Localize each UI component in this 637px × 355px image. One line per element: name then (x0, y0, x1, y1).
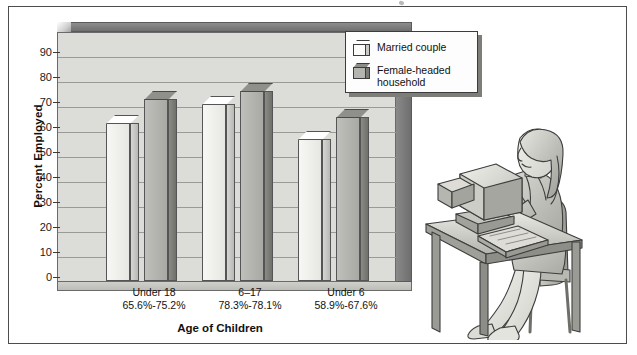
figure-canvas: 90 80 70 60 50 40 30 20 10 0 Percent Emp… (0, 0, 637, 355)
bar-married-couple-under-18 (106, 115, 139, 281)
bar-face (144, 99, 168, 281)
y-tick-label: 0 (22, 272, 52, 282)
bar-side (130, 123, 139, 281)
x-group-name: Under 6 (286, 286, 406, 299)
illustration-woman-at-computer (420, 118, 600, 340)
x-group-under-6: Under 6 58.9%-67.6% (286, 286, 406, 312)
stray-speck (398, 0, 404, 6)
y-tick-mark (53, 202, 60, 203)
y-tick-label: 10 (22, 247, 52, 257)
legend-item-married-couple: Married couple (353, 40, 446, 56)
legend-box: Married couple Female-headed household (345, 31, 478, 93)
bar-side (168, 99, 177, 281)
bar-face (240, 91, 264, 281)
bar-female-headed-under-6 (336, 109, 369, 281)
bar-female-headed-6-17 (240, 83, 273, 281)
chart-legend: Married couple Female-headed household (345, 31, 478, 93)
y-tick-mark (53, 77, 60, 78)
legend-swatch-dark-cube-icon (353, 63, 370, 79)
y-tick-mark (53, 227, 60, 228)
bar-side (264, 91, 273, 281)
bar-female-headed-under-18 (144, 91, 177, 281)
bar-face (202, 104, 226, 281)
legend-swatch-light-cube-icon (353, 40, 370, 56)
bar-face (298, 139, 322, 281)
x-axis-title: Age of Children (120, 322, 320, 334)
y-tick-mark (53, 52, 60, 53)
bar-face (336, 117, 360, 281)
y-axis: 90 80 70 60 50 40 30 20 10 0 Percent Emp… (22, 22, 62, 297)
y-axis-title: Percent Employed (32, 76, 44, 236)
bar-side (360, 117, 369, 281)
legend-item-female-headed-household: Female-headed household (353, 63, 461, 88)
y-tick-mark (53, 277, 60, 278)
y-tick-label: 90 (22, 47, 52, 57)
x-group-values: 58.9%-67.6% (286, 299, 406, 312)
bar-face (106, 123, 130, 281)
legend-label: Female-headed household (377, 63, 461, 88)
y-tick-mark (53, 177, 60, 178)
bar-side (226, 104, 235, 281)
bar-side (322, 139, 331, 281)
y-tick-mark (53, 102, 60, 103)
y-tick-mark (53, 152, 60, 153)
bar-married-couple-6-17 (202, 96, 235, 281)
bar-married-couple-under-6 (298, 131, 331, 281)
y-tick-mark (53, 127, 60, 128)
y-tick-mark (53, 252, 60, 253)
legend-label: Married couple (377, 40, 446, 53)
